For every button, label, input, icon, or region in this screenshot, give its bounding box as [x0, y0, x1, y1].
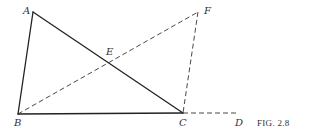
point-label-c: C: [179, 117, 187, 128]
point-label-d: D: [234, 117, 243, 128]
point-label-f: F: [203, 5, 212, 16]
geometry-figure: A B C D E F FIG. 2.8: [0, 0, 311, 131]
segment-ab: [18, 12, 33, 114]
point-label-e: E: [105, 46, 114, 57]
segment-bc: [18, 113, 183, 114]
segment-fc-dashed: [183, 12, 198, 113]
segment-ac: [33, 12, 183, 113]
figure-caption: FIG. 2.8: [257, 118, 290, 128]
point-label-b: B: [13, 117, 21, 128]
point-label-a: A: [22, 5, 30, 16]
